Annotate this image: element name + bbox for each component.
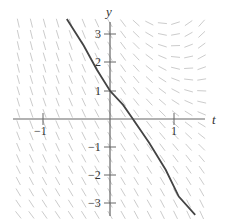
y-tick-label-1: 1 <box>95 84 101 98</box>
slope-mark <box>95 19 99 27</box>
slope-mark <box>159 121 165 128</box>
slope-mark <box>145 32 153 37</box>
slope-mark <box>17 109 20 118</box>
slope-mark <box>146 65 153 71</box>
slope-mark <box>147 188 151 196</box>
slope-mark <box>198 55 206 59</box>
slope-mark <box>30 87 33 96</box>
slope-mark <box>121 188 126 196</box>
slope-mark <box>69 87 72 95</box>
slope-mark <box>184 79 193 80</box>
slope-mark <box>199 166 204 173</box>
slope-mark <box>17 53 19 62</box>
slope-mark <box>158 23 167 24</box>
slope-mark <box>69 121 73 129</box>
slope-mark <box>145 21 153 25</box>
slope-mark <box>200 188 204 196</box>
slope-mark <box>17 143 20 151</box>
slope-mark <box>82 166 86 174</box>
slope-mark <box>172 111 179 117</box>
slope-mark <box>43 166 47 174</box>
slope-mark <box>30 98 33 107</box>
slope-mark <box>95 98 99 106</box>
slope-mark <box>43 154 47 162</box>
slope-mark <box>146 99 152 106</box>
slope-mark <box>171 67 180 69</box>
slope-mark <box>173 144 179 151</box>
slope-mark <box>29 200 34 208</box>
slope-mark <box>200 211 204 219</box>
slope-mark <box>172 100 180 105</box>
slope-mark <box>158 55 166 59</box>
solution-curve <box>67 19 195 215</box>
slope-mark <box>30 154 34 162</box>
slope-mark <box>120 20 125 27</box>
slope-mark <box>121 211 125 219</box>
y-tick-label-neg2: −2 <box>88 168 101 182</box>
slope-mark <box>82 121 86 129</box>
slope-mark <box>82 188 87 196</box>
slope-mark <box>17 120 20 128</box>
slope-mark <box>30 120 33 128</box>
slope-mark <box>43 53 46 62</box>
slope-mark <box>186 177 191 185</box>
slope-mark <box>199 155 205 162</box>
slope-mark <box>82 200 87 208</box>
t-tick-label-neg1: −1 <box>34 124 47 138</box>
slope-mark <box>56 30 59 39</box>
slope-mark <box>56 53 59 62</box>
slope-mark <box>55 177 59 185</box>
slope-mark <box>56 143 60 151</box>
slope-mark <box>133 99 139 106</box>
slope-mark <box>197 79 206 80</box>
slope-mark <box>199 20 205 27</box>
slope-mark <box>187 211 191 219</box>
slope-mark <box>43 30 45 39</box>
slope-mark <box>56 41 59 50</box>
slope-mark <box>17 87 20 96</box>
slope-mark <box>69 132 73 140</box>
slope-mark <box>147 166 152 174</box>
slope-mark <box>160 188 164 196</box>
slope-mark <box>56 121 60 129</box>
slope-mark <box>185 21 192 26</box>
slope-mark <box>186 188 190 196</box>
slope-mark <box>185 111 193 116</box>
slope-mark <box>133 76 139 83</box>
slope-mark <box>120 31 125 38</box>
slope-mark <box>158 66 166 70</box>
slope-mark <box>82 177 86 185</box>
slope-mark <box>69 53 72 62</box>
slope-mark <box>29 177 33 185</box>
slope-mark <box>69 155 73 163</box>
slope-mark <box>147 177 152 185</box>
t-axis-label: t <box>212 112 216 127</box>
y-tick-label-neg3: −3 <box>88 196 101 210</box>
slope-mark <box>133 20 140 26</box>
slope-mark <box>160 200 164 208</box>
slope-mark <box>158 34 167 36</box>
slope-mark <box>133 54 139 61</box>
slope-mark <box>82 87 86 95</box>
slope-mark <box>134 200 138 208</box>
slope-mark <box>17 64 19 73</box>
slope-mark <box>82 143 86 151</box>
slope-mark <box>159 88 166 93</box>
slope-mark <box>16 177 20 185</box>
slope-mark <box>43 41 45 50</box>
slope-mark <box>43 143 47 151</box>
slope-mark <box>30 19 32 28</box>
slope-mark <box>133 65 139 72</box>
slope-mark <box>198 67 206 70</box>
slope-mark <box>56 154 60 162</box>
slope-mark <box>198 133 205 139</box>
slope-mark <box>198 122 206 127</box>
slope-mark <box>160 133 166 140</box>
slope-mark <box>17 75 19 84</box>
slope-mark <box>172 89 180 93</box>
slope-mark <box>147 132 152 139</box>
slope-mark <box>133 31 139 37</box>
slope-mark <box>29 166 33 174</box>
slope-mark <box>43 98 46 107</box>
slope-mark <box>81 211 86 219</box>
